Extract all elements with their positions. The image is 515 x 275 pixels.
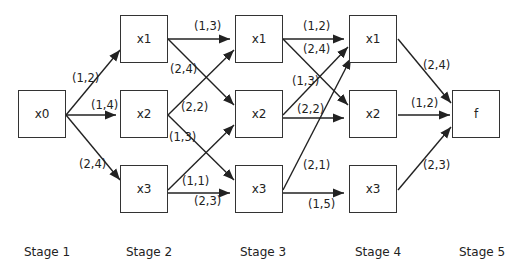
node-label: x3	[137, 182, 152, 196]
edge-label: (2,2)	[297, 104, 324, 116]
edge-label: (2,4)	[79, 159, 106, 171]
node-label: x1	[252, 32, 267, 46]
node-stage2-x1: x1	[120, 15, 168, 63]
node-label: x3	[252, 182, 267, 196]
node-stage4-x3: x3	[349, 165, 397, 213]
node-label: x0	[35, 107, 50, 121]
edge-label: (2,1)	[303, 160, 330, 172]
node-label: x2	[137, 107, 152, 121]
edge-label: (1,3)	[169, 132, 196, 144]
edge-label: (1,2)	[303, 21, 330, 33]
node-label: f	[474, 107, 478, 121]
stage-label-5: Stage 5	[459, 245, 505, 259]
node-stage3-x3: x3	[235, 165, 283, 213]
edge-label: (1,2)	[411, 98, 438, 110]
node-label: x1	[137, 32, 152, 46]
stage-label-1: Stage 1	[24, 245, 70, 259]
node-label: x2	[366, 107, 381, 121]
stage-label-2: Stage 2	[126, 245, 172, 259]
node-label: x1	[366, 32, 381, 46]
edge-label: (1,3)	[194, 21, 221, 33]
edge-label: (2,4)	[170, 64, 197, 76]
node-x0: x0	[18, 90, 66, 138]
node-stage4-x2: x2	[349, 90, 397, 138]
edge-label: (1,2)	[72, 73, 99, 85]
edge-label: (1,5)	[308, 199, 335, 211]
edge-label: (2,4)	[303, 44, 330, 56]
edge-label: (2,2)	[181, 102, 208, 114]
edge-label: (2,3)	[423, 160, 450, 172]
node-stage3-x2: x2	[235, 90, 283, 138]
edge-label: (2,3)	[194, 196, 221, 208]
stage-label-4: Stage 4	[355, 245, 401, 259]
node-stage2-x2: x2	[120, 90, 168, 138]
node-f: f	[452, 90, 500, 138]
edge-label: (1,4)	[91, 100, 118, 112]
edge-label: (1,1)	[182, 176, 209, 188]
node-stage4-x1: x1	[349, 15, 397, 63]
node-stage2-x3: x3	[120, 165, 168, 213]
node-label: x3	[366, 182, 381, 196]
edge-label: (1,3)	[292, 76, 319, 88]
node-stage3-x1: x1	[235, 15, 283, 63]
node-label: x2	[252, 107, 267, 121]
stage-label-3: Stage 3	[240, 245, 286, 259]
edge-s2x2-s3x3	[168, 115, 234, 180]
edge-label: (2,4)	[423, 60, 450, 72]
